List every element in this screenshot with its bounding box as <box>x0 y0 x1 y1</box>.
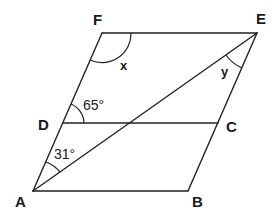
angle-label-65: 65° <box>83 97 104 113</box>
angle-arc-y <box>226 55 242 68</box>
vertex-label-e: E <box>256 10 266 27</box>
angle-label-31: 31° <box>54 146 75 162</box>
vertex-label-d: D <box>38 116 49 133</box>
vertex-label-c: C <box>226 118 237 135</box>
vertex-label-f: F <box>93 11 102 28</box>
angle-label-y: y <box>221 64 229 79</box>
angle-arc-31 <box>46 162 60 172</box>
segment-ae <box>33 33 257 191</box>
vertex-label-a: A <box>15 193 26 210</box>
angle-label-x: x <box>120 58 128 73</box>
geometry-diagram: F E D C A B x 65° 31° y <box>0 0 280 220</box>
vertex-label-b: B <box>192 193 203 210</box>
